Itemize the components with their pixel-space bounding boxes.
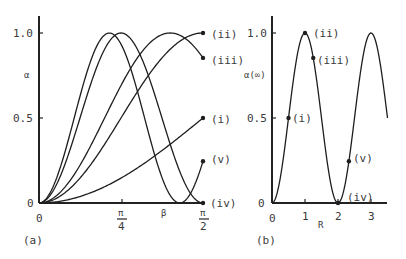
point-label-iv: (iv) bbox=[347, 191, 374, 204]
endpoint-marker bbox=[201, 31, 205, 35]
panel-b-ytick-label-05: 0.5 bbox=[247, 112, 267, 125]
panel-a-x-label: β bbox=[161, 208, 166, 218]
point-marker bbox=[311, 56, 315, 60]
panel-b-label: (b) bbox=[256, 234, 276, 247]
panel-a-xtick-pi4-den: 4 bbox=[118, 220, 125, 233]
curve-label-iii: (iii) bbox=[211, 54, 244, 67]
panel-a-label: (a) bbox=[23, 234, 43, 247]
panel-a-xtick-pi2-den: 2 bbox=[200, 220, 207, 233]
point-label-iii: (iii) bbox=[317, 54, 350, 67]
figure: 1.0 0.5 0 α 0 π 4 π 2 β (a) (ii) (iii) (… bbox=[0, 0, 406, 259]
point-marker bbox=[286, 116, 290, 120]
endpoint-marker bbox=[201, 159, 205, 163]
panel-b-xtick-label-2: 2 bbox=[335, 210, 342, 223]
panel-a-ytick-label-0: 0 bbox=[27, 197, 34, 210]
endpoint-marker bbox=[201, 56, 205, 60]
panel-a-xtick-label-0: 0 bbox=[36, 212, 43, 225]
endpoint-marker bbox=[201, 201, 205, 205]
curve-label-i: (i) bbox=[211, 113, 231, 126]
panel-a-xtick-pi2-num: π bbox=[200, 208, 206, 218]
curve-label-v: (v) bbox=[211, 153, 231, 166]
panel-a-ytick-label-05: 0.5 bbox=[13, 112, 33, 125]
panel-a-ytick-label-1: 1.0 bbox=[13, 27, 33, 40]
panel-a: 1.0 0.5 0 α 0 π 4 π 2 β (a) (ii) (iii) (… bbox=[13, 16, 244, 247]
curve-i bbox=[39, 118, 203, 203]
panel-a-curves bbox=[39, 31, 205, 205]
point-marker bbox=[303, 31, 307, 35]
endpoint-marker bbox=[201, 116, 205, 120]
point-marker bbox=[347, 159, 351, 163]
curve-label-iv: (iv) bbox=[210, 197, 237, 210]
panel-b-y-label: α(∞) bbox=[244, 70, 266, 80]
panel-b-ytick-label-1: 1.0 bbox=[247, 27, 267, 40]
panel-b-x-label: R bbox=[318, 220, 324, 230]
curve-label-ii: (ii) bbox=[211, 28, 238, 41]
point-label-v: (v) bbox=[353, 152, 373, 165]
panel-a-y-label: α bbox=[24, 70, 30, 80]
point-label-i: (i) bbox=[292, 112, 312, 125]
point-label-ii: (ii) bbox=[313, 27, 340, 40]
panel-b-xtick-label-0: 0 bbox=[269, 212, 276, 225]
panel-b-xtick-label-3: 3 bbox=[368, 210, 375, 223]
panel-a-xtick-pi4-num: π bbox=[118, 208, 124, 218]
panel-b-xtick-label-1: 1 bbox=[302, 210, 309, 223]
panel-b-ytick-label-0: 0 bbox=[258, 197, 265, 210]
panel-b: 1.0 0.5 0 α(∞) 0 1 2 3 R (b) (ii) (iii) … bbox=[244, 16, 388, 247]
point-marker bbox=[336, 201, 340, 205]
